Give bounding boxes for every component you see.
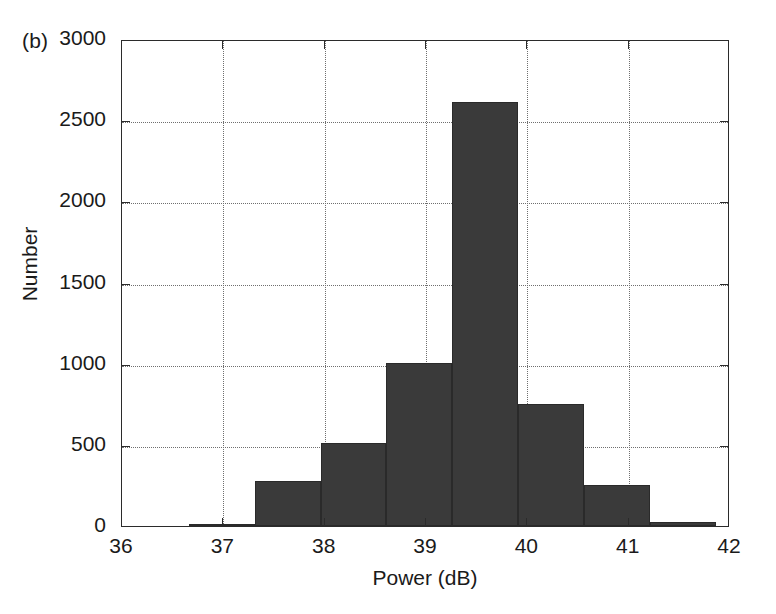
x-tick-label-41: 41 bbox=[598, 534, 658, 558]
gridline-x-37 bbox=[223, 41, 224, 526]
y-tick-label-2500: 2500 bbox=[0, 107, 106, 131]
x-tick-label-39: 39 bbox=[395, 534, 455, 558]
x-tick-label-40: 40 bbox=[496, 534, 556, 558]
y-tick-label-1000: 1000 bbox=[0, 351, 106, 375]
histogram-bar bbox=[386, 363, 452, 526]
histogram-bar bbox=[650, 522, 716, 526]
histogram-bar bbox=[518, 404, 584, 526]
x-tick-mark-38 bbox=[324, 518, 325, 527]
y-tick-mark-right-2000 bbox=[720, 202, 729, 203]
y-tick-label-1500: 1500 bbox=[0, 270, 106, 294]
histogram-bar bbox=[255, 481, 321, 526]
x-tick-label-42: 42 bbox=[699, 534, 759, 558]
x-tick-mark-39 bbox=[425, 518, 426, 527]
y-tick-mark-right-1000 bbox=[720, 365, 729, 366]
y-tick-mark-2500 bbox=[121, 121, 130, 122]
y-tick-mark-right-500 bbox=[720, 446, 729, 447]
y-tick-mark-right-2500 bbox=[720, 121, 729, 122]
gridline-y-2000 bbox=[122, 203, 728, 204]
x-tick-mark-40 bbox=[526, 518, 527, 527]
x-tick-mark-41 bbox=[628, 518, 629, 527]
y-tick-mark-1500 bbox=[121, 284, 130, 285]
gridline-x-41 bbox=[629, 41, 630, 526]
y-axis-label: Number bbox=[18, 204, 42, 324]
x-tick-mark-top-38 bbox=[324, 40, 325, 49]
y-tick-label-2000: 2000 bbox=[0, 188, 106, 212]
plot-area bbox=[121, 40, 729, 527]
histogram-bar bbox=[584, 485, 650, 526]
x-tick-mark-top-40 bbox=[526, 40, 527, 49]
x-axis-label: Power (dB) bbox=[121, 566, 729, 590]
histogram-bar bbox=[452, 102, 518, 526]
y-tick-mark-right-1500 bbox=[720, 284, 729, 285]
y-tick-mark-2000 bbox=[121, 202, 130, 203]
y-tick-mark-500 bbox=[121, 446, 130, 447]
gridline-y-1500 bbox=[122, 285, 728, 286]
y-tick-label-500: 500 bbox=[0, 432, 106, 456]
x-tick-mark-top-39 bbox=[425, 40, 426, 49]
histogram-figure: (b) 050010001500200025003000 36373839404… bbox=[0, 0, 776, 614]
y-tick-mark-1000 bbox=[121, 365, 130, 366]
x-tick-mark-top-37 bbox=[222, 40, 223, 49]
gridline-y-2500 bbox=[122, 122, 728, 123]
x-tick-label-37: 37 bbox=[192, 534, 252, 558]
x-tick-label-36: 36 bbox=[91, 534, 151, 558]
y-tick-label-3000: 3000 bbox=[0, 26, 106, 50]
x-tick-mark-top-41 bbox=[628, 40, 629, 49]
x-tick-mark-37 bbox=[222, 518, 223, 527]
histogram-bar bbox=[321, 443, 387, 526]
x-tick-label-38: 38 bbox=[294, 534, 354, 558]
